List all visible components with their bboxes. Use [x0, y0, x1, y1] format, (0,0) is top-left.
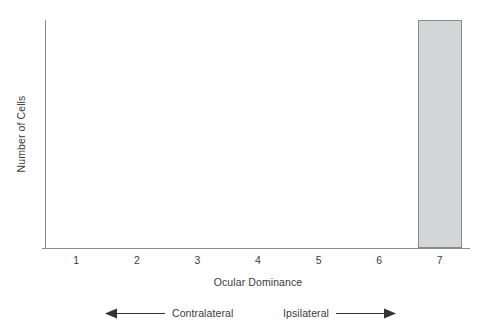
direction-annotation-row: Contralateral Ipsilateral — [0, 303, 487, 323]
x-tick-label: 4 — [238, 252, 278, 268]
x-axis-tick-labels: 1234567 — [46, 252, 470, 268]
plot-area — [46, 20, 470, 248]
ipsilateral-label: Ipsilateral — [283, 303, 329, 323]
x-tick-label: 5 — [299, 252, 339, 268]
contralateral-annotation: Contralateral — [105, 303, 233, 323]
ipsilateral-annotation: Ipsilateral — [283, 303, 396, 323]
contralateral-label: Contralateral — [172, 303, 233, 323]
ocular-dominance-histogram: Number of Cells 1234567 Ocular Dominance… — [0, 0, 487, 335]
x-tick-label: 6 — [359, 252, 399, 268]
y-axis-title: Number of Cells — [14, 20, 28, 248]
arrow-right-icon — [336, 308, 396, 319]
bar — [418, 20, 462, 248]
x-axis-title: Ocular Dominance — [46, 275, 470, 289]
x-axis-line — [42, 248, 470, 249]
x-tick-label: 7 — [420, 252, 460, 268]
x-tick-label: 3 — [177, 252, 217, 268]
arrow-left-icon — [105, 308, 165, 319]
x-tick-label: 2 — [117, 252, 157, 268]
x-tick-label: 1 — [56, 252, 96, 268]
